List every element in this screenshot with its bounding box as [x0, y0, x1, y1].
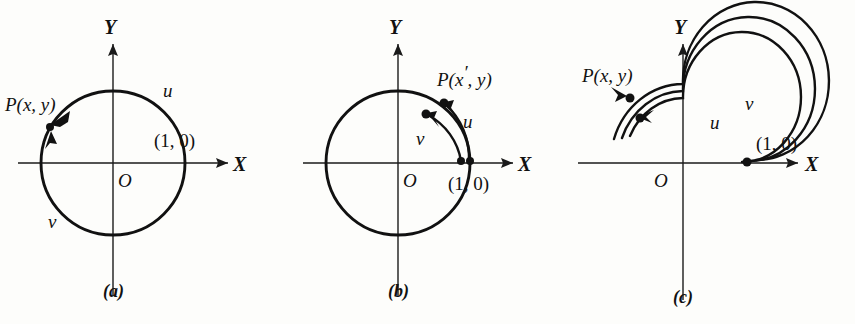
path-v-label: v — [416, 128, 425, 149]
path-v-end-dot — [626, 94, 635, 103]
panel-caption: (c) — [673, 287, 693, 308]
path-u-label: u — [710, 112, 720, 133]
panel-b: X Y O P(x′, y) (1, 0) u v (b) — [285, 0, 570, 324]
path-u-label: u — [163, 80, 173, 101]
panel-c: X Y O P(x, y) (1, 0) u v (c) — [570, 0, 855, 324]
panel-a-drawing: X Y O P(x, y) (1, 0) u v (a) — [0, 0, 285, 324]
path-v-label: v — [48, 211, 57, 232]
point-p-label-head: P(x — [436, 69, 464, 91]
coordinate-label: (1, 0) — [756, 133, 797, 155]
panel-c-drawing: X Y O P(x, y) (1, 0) u v (c) — [570, 0, 855, 324]
path-u-label: u — [463, 111, 473, 132]
y-axis-label: Y — [104, 16, 118, 38]
panel-a: X Y O P(x, y) (1, 0) u v (a) — [0, 0, 285, 324]
x-axis-label: X — [517, 153, 532, 175]
panel-caption: (b) — [388, 281, 409, 302]
point-p-label: P(x, y) — [581, 65, 633, 87]
figure-canvas: X Y O P(x, y) (1, 0) u v (a) — [0, 0, 855, 324]
y-axis-label: Y — [389, 16, 403, 38]
origin-label: O — [654, 170, 668, 191]
panel-b-drawing: X Y O P(x′, y) (1, 0) u v (b) — [285, 0, 570, 324]
point-p-label: P(x′, y) — [436, 62, 492, 91]
origin-label: O — [118, 170, 132, 191]
point-p-label-tail: , y) — [468, 69, 492, 91]
y-axis-label: Y — [674, 16, 688, 38]
x-axis-label: X — [232, 153, 247, 175]
path-v-arrowhead — [611, 87, 627, 102]
x-axis-label: X — [804, 153, 819, 175]
spiral-start-dot — [743, 158, 752, 167]
path-v-arrowhead — [427, 111, 439, 127]
coordinate-label: (1, 0) — [154, 130, 195, 152]
panel-caption: (a) — [103, 281, 124, 302]
origin-label: O — [403, 170, 417, 191]
coordinate-label: (1, 0) — [448, 173, 489, 195]
point-p-label: P(x, y) — [4, 94, 56, 116]
path-v-label: v — [745, 93, 754, 114]
path-u-start-dot — [466, 157, 474, 165]
path-v-start-dot — [457, 157, 465, 165]
